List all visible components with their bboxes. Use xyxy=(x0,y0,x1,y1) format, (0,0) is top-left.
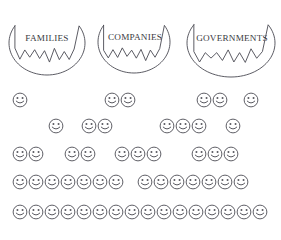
smiley-face-icon xyxy=(60,174,76,190)
smiley-face-icon xyxy=(207,146,223,162)
smiley-face-icon xyxy=(140,204,156,220)
smiley-face-icon xyxy=(104,92,120,108)
smiley-face-icon xyxy=(233,174,249,190)
smiley-row-2-cluster-1 xyxy=(48,118,64,134)
smiley-rows-group xyxy=(0,88,281,240)
smiley-row-2-cluster-2 xyxy=(81,118,113,134)
smiley-row-4-cluster-2 xyxy=(137,174,249,190)
smiley-face-icon xyxy=(44,174,60,190)
smiley-row-3-cluster-1 xyxy=(12,146,44,162)
smiley-face-icon xyxy=(172,204,188,220)
torn-circle-families-label: FAMILIES xyxy=(14,34,80,43)
smiley-row-4 xyxy=(0,174,281,198)
smiley-face-icon xyxy=(175,118,191,134)
smiley-face-icon xyxy=(220,204,236,220)
smiley-face-icon xyxy=(80,146,96,162)
torn-circle-governments-label: GOVERNMENTS xyxy=(187,34,277,43)
smiley-face-icon xyxy=(201,174,217,190)
smiley-face-icon xyxy=(97,118,113,134)
smiley-face-icon xyxy=(120,92,136,108)
smiley-face-icon xyxy=(243,92,259,108)
smiley-face-icon xyxy=(64,146,80,162)
torn-circles-group: FAMILIESCOMPANIESGOVERNMENTS xyxy=(0,0,281,86)
smiley-face-icon xyxy=(191,118,207,134)
smiley-row-3-cluster-2 xyxy=(64,146,96,162)
smiley-face-icon xyxy=(76,204,92,220)
smiley-row-5-cluster-1 xyxy=(12,204,268,220)
smiley-face-icon xyxy=(188,204,204,220)
smiley-face-icon xyxy=(28,146,44,162)
smiley-face-icon xyxy=(204,204,220,220)
figure-canvas: FAMILIESCOMPANIESGOVERNMENTS xyxy=(0,0,281,240)
torn-circle-companies-label: COMPANIES xyxy=(100,33,170,42)
smiley-row-3-cluster-3 xyxy=(114,146,162,162)
smiley-face-icon xyxy=(76,174,92,190)
smiley-face-icon xyxy=(81,118,97,134)
smiley-face-icon xyxy=(146,146,162,162)
smiley-row-2-cluster-3 xyxy=(159,118,207,134)
smiley-face-icon xyxy=(92,204,108,220)
smiley-row-1-cluster-1 xyxy=(12,92,28,108)
smiley-face-icon xyxy=(156,204,172,220)
smiley-face-icon xyxy=(114,146,130,162)
smiley-face-icon xyxy=(12,174,28,190)
smiley-row-1-cluster-2 xyxy=(104,92,136,108)
smiley-face-icon xyxy=(196,92,212,108)
smiley-row-1-cluster-3 xyxy=(196,92,228,108)
smiley-face-icon xyxy=(236,204,252,220)
smiley-row-3-cluster-4 xyxy=(191,146,239,162)
smiley-row-3 xyxy=(0,146,281,170)
smiley-face-icon xyxy=(252,204,268,220)
smiley-face-icon xyxy=(153,174,169,190)
smiley-face-icon xyxy=(212,92,228,108)
smiley-face-icon xyxy=(169,174,185,190)
smiley-face-icon xyxy=(60,204,76,220)
smiley-row-1 xyxy=(0,92,281,116)
smiley-face-icon xyxy=(28,174,44,190)
smiley-face-icon xyxy=(108,174,124,190)
smiley-face-icon xyxy=(12,204,28,220)
smiley-face-icon xyxy=(28,204,44,220)
smiley-face-icon xyxy=(108,204,124,220)
smiley-face-icon xyxy=(191,146,207,162)
smiley-row-4-cluster-1 xyxy=(12,174,124,190)
smiley-row-1-cluster-4 xyxy=(243,92,259,108)
smiley-face-icon xyxy=(12,92,28,108)
smiley-face-icon xyxy=(223,146,239,162)
smiley-row-2-cluster-4 xyxy=(225,118,241,134)
smiley-face-icon xyxy=(12,146,28,162)
smiley-face-icon xyxy=(137,174,153,190)
smiley-face-icon xyxy=(185,174,201,190)
smiley-face-icon xyxy=(48,118,64,134)
smiley-row-2 xyxy=(0,118,281,142)
smiley-face-icon xyxy=(159,118,175,134)
smiley-face-icon xyxy=(217,174,233,190)
smiley-face-icon xyxy=(44,204,60,220)
smiley-face-icon xyxy=(92,174,108,190)
smiley-face-icon xyxy=(225,118,241,134)
smiley-face-icon xyxy=(130,146,146,162)
smiley-row-5 xyxy=(0,204,281,228)
smiley-face-icon xyxy=(124,204,140,220)
